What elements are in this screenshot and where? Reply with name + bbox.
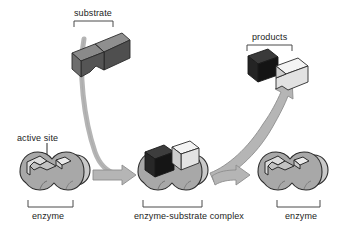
enzyme-reaction-diagram: substrate products active site enzyme en… bbox=[0, 0, 339, 230]
enzyme-substrate-complex bbox=[138, 141, 208, 190]
label-substrate: substrate bbox=[74, 8, 112, 18]
label-enzyme-right: enzyme bbox=[285, 211, 317, 221]
enzyme-left bbox=[20, 152, 90, 190]
label-active-site: active site bbox=[17, 133, 58, 143]
bracket-enzyme-left bbox=[28, 200, 73, 207]
enzyme-right bbox=[258, 152, 328, 190]
label-enzyme-left: enzyme bbox=[32, 211, 64, 221]
bracket-enzyme-substrate-complex bbox=[143, 200, 202, 207]
bracket-enzyme-right bbox=[277, 200, 320, 207]
diagram-canvas bbox=[0, 0, 339, 230]
bracket-substrate bbox=[74, 21, 113, 27]
substrate-molecule bbox=[72, 33, 130, 77]
product-dark-block bbox=[248, 49, 278, 82]
product-light-block bbox=[276, 58, 308, 90]
label-products: products bbox=[252, 32, 287, 42]
label-enzyme-substrate-complex: enzyme-substrate complex bbox=[134, 211, 244, 221]
